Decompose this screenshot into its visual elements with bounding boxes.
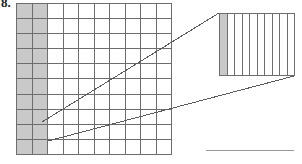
main-grid-rows (17, 4, 171, 154)
grid-row (17, 64, 171, 79)
grid-row (17, 125, 171, 140)
answer-rule (206, 150, 294, 151)
magnified-strip (258, 14, 266, 75)
magnified-strip (265, 14, 273, 75)
magnified-strip (280, 14, 288, 75)
magnified-strip (220, 14, 228, 75)
grid-row (17, 95, 171, 110)
problem-number-label: 8. (1, 0, 11, 9)
figure-root: 8. (0, 0, 302, 164)
magnified-strip (228, 14, 236, 75)
grid-row (17, 19, 171, 34)
main-grid (16, 3, 172, 155)
grid-row (17, 34, 171, 49)
magnified-strip (235, 14, 243, 75)
magnified-strip (288, 14, 295, 75)
magnified-strip (250, 14, 258, 75)
grid-row (17, 79, 171, 94)
grid-row (17, 110, 171, 125)
grid-row (17, 140, 171, 154)
grid-row (17, 49, 171, 64)
magnified-strip-panel (219, 13, 295, 76)
magnified-strip (273, 14, 281, 75)
magnified-strip (243, 14, 251, 75)
grid-row (17, 4, 171, 19)
